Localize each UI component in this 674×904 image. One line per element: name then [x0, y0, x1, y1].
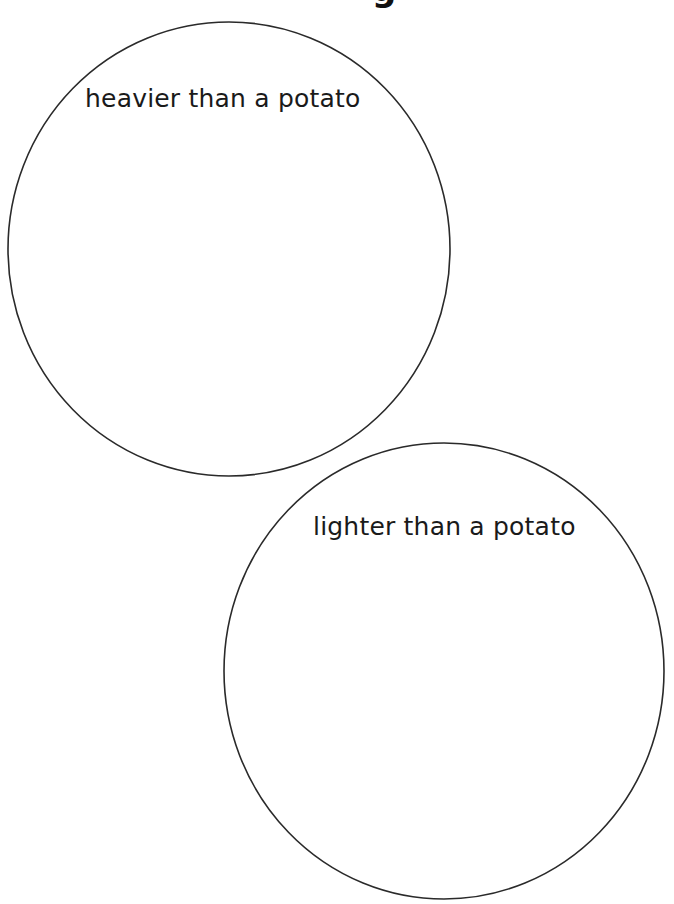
lighter-than-potato-label: lighter than a potato [313, 512, 576, 542]
heavier-than-potato-label: heavier than a potato [85, 84, 361, 114]
sorting-circles [0, 0, 674, 904]
